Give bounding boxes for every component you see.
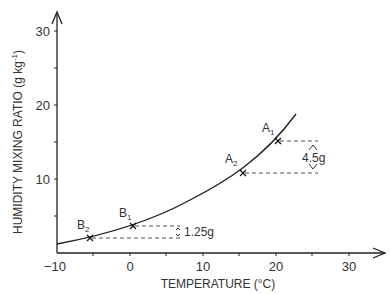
x-tick-label-neg10: −10 bbox=[44, 259, 66, 274]
x-axis-label: TEMPERATURE (°C) bbox=[161, 277, 276, 291]
x-tick-label-10: 10 bbox=[196, 259, 210, 274]
y-tick-label-10: 10 bbox=[36, 172, 50, 187]
label-b1: B1 bbox=[119, 206, 132, 222]
label-a1: A1 bbox=[262, 121, 275, 137]
mixing-ratio-curve bbox=[57, 114, 296, 244]
y-axis-label: HUMIDITY MIXING RATIO (g kg-1) bbox=[10, 50, 25, 234]
dashed-guides bbox=[92, 141, 318, 238]
y-axis bbox=[52, 12, 62, 253]
annotation-1-25g: 1.25g bbox=[184, 225, 214, 239]
label-b2: B2 bbox=[77, 218, 90, 234]
difference-arrow-b bbox=[176, 228, 180, 236]
x-axis bbox=[57, 248, 385, 258]
x-tick-label-20: 20 bbox=[269, 259, 283, 274]
x-tick-label-30: 30 bbox=[342, 259, 356, 274]
x-tick-label-0: 0 bbox=[126, 259, 133, 274]
y-tick-label-20: 20 bbox=[36, 98, 50, 113]
y-tick-label-30: 30 bbox=[36, 24, 50, 39]
chart: 30 20 10 −10 0 10 20 30 TEMPERATURE (°C)… bbox=[0, 0, 390, 294]
label-a2: A2 bbox=[225, 152, 238, 168]
annotation-4-5g: 4.5g bbox=[302, 151, 325, 165]
